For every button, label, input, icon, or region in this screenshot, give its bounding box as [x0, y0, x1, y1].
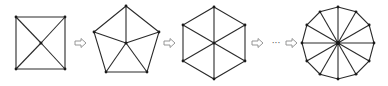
vertex-dot: [319, 10, 322, 13]
spoke-edge: [126, 32, 159, 43]
shapes-layer: [15, 5, 376, 81]
vertex-dot: [15, 16, 18, 19]
vertex-dot: [244, 60, 247, 63]
spoke-edge: [126, 43, 147, 72]
spoke-edge: [183, 25, 214, 43]
vertex-dot: [158, 31, 161, 34]
spoke-edge: [16, 43, 41, 69]
right-arrow-icon: [286, 39, 297, 48]
vertex-dot: [305, 24, 308, 27]
vertex-dot: [213, 78, 216, 81]
vertex-dot: [182, 24, 185, 27]
vertex-dot: [125, 5, 128, 8]
polygon-sequence-diagram: ···: [0, 0, 388, 86]
spoke-edge: [41, 43, 65, 69]
spoke-edge: [183, 43, 214, 61]
vertex-dot: [244, 24, 247, 27]
spoke-edge: [106, 43, 126, 72]
center-dot: [213, 42, 216, 45]
ellipsis-text: ···: [272, 38, 281, 48]
right-arrow-icon: [252, 39, 263, 48]
vertex-dot: [64, 16, 67, 19]
vertex-dot: [319, 73, 322, 76]
spoke-edge: [41, 17, 65, 43]
center-dot: [40, 42, 43, 45]
vertex-dot: [337, 6, 340, 9]
vertex-dot: [105, 71, 108, 74]
spoke-edge: [94, 32, 126, 43]
spoke-edge: [16, 17, 41, 43]
vertex-dot: [368, 24, 371, 27]
vertex-dot: [305, 60, 308, 63]
vertex-dot: [15, 68, 18, 71]
vertex-dot: [213, 6, 216, 9]
vertex-dot: [355, 10, 358, 13]
vertex-dot: [368, 60, 371, 63]
right-arrow-icon: [75, 39, 86, 48]
vertex-dot: [146, 71, 149, 74]
right-arrow-icon: [164, 39, 175, 48]
spoke-edge: [214, 43, 245, 61]
square-shape: [15, 16, 67, 71]
vertex-dot: [373, 42, 376, 45]
vertex-dot: [301, 42, 304, 45]
vertex-dot: [64, 68, 67, 71]
dodecagon-shape: [301, 6, 376, 81]
vertex-dot: [355, 73, 358, 76]
vertex-dot: [93, 31, 96, 34]
center-dot: [125, 42, 128, 45]
vertex-dot: [182, 60, 185, 63]
vertex-dot: [337, 78, 340, 81]
center-dot: [336, 41, 340, 45]
arrows-layer: [75, 39, 297, 48]
pentagon-shape: [93, 5, 161, 74]
hexagon-shape: [182, 6, 247, 81]
spoke-edge: [214, 25, 245, 43]
